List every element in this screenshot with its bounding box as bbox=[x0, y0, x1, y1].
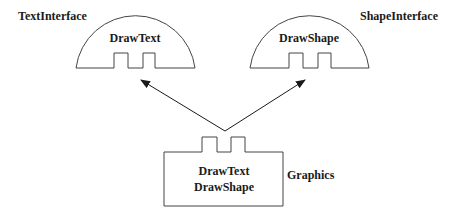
shape-interface-node: ShapeInterface DrawShape bbox=[250, 9, 439, 68]
interface-diagram: TextInterface DrawText ShapeInterface Dr… bbox=[0, 0, 450, 216]
shape-interface-method: DrawShape bbox=[279, 31, 340, 45]
shape-interface-label: ShapeInterface bbox=[360, 9, 439, 23]
graphics-method-drawtext: DrawText bbox=[199, 164, 250, 178]
text-interface-node: TextInterface DrawText bbox=[18, 9, 195, 68]
graphics-label: Graphics bbox=[287, 168, 335, 182]
graphics-method-drawshape: DrawShape bbox=[194, 180, 255, 194]
text-interface-method: DrawText bbox=[110, 31, 161, 45]
arrow-to-shape-interface bbox=[225, 80, 305, 131]
arrow-to-text-interface bbox=[141, 80, 225, 131]
text-interface-label: TextInterface bbox=[18, 9, 88, 23]
graphics-class-node: DrawText DrawShape Graphics bbox=[164, 137, 335, 206]
